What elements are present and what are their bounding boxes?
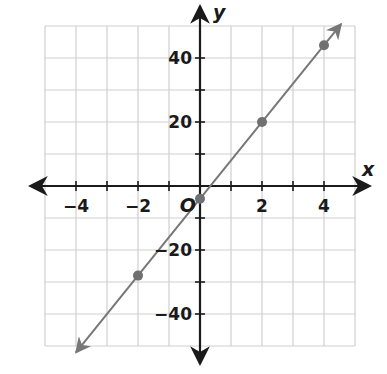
x-tick-label: 4 [318,196,330,216]
y-tick-label: −40 [154,304,192,324]
y-tick-label: 40 [168,48,192,68]
y-tick-label: 20 [168,112,192,132]
series-line [76,24,341,352]
x-axis-label: x [361,158,375,180]
axis-labels: −4−224−40−202040Oxy [63,1,375,324]
data-point [257,117,267,127]
coordinate-plane: −4−224−40−202040Oxy [0,0,387,374]
x-tick-label: −2 [125,196,151,216]
data-series [76,24,341,352]
axes [30,6,370,364]
x-tick-label: 2 [256,196,268,216]
y-axis-label: y [213,1,227,23]
data-point [195,194,205,204]
x-tick-label: −4 [63,196,89,216]
origin-label: O [180,194,196,216]
data-point [319,40,329,50]
y-tick-label: −20 [154,240,192,260]
data-point [133,271,143,281]
